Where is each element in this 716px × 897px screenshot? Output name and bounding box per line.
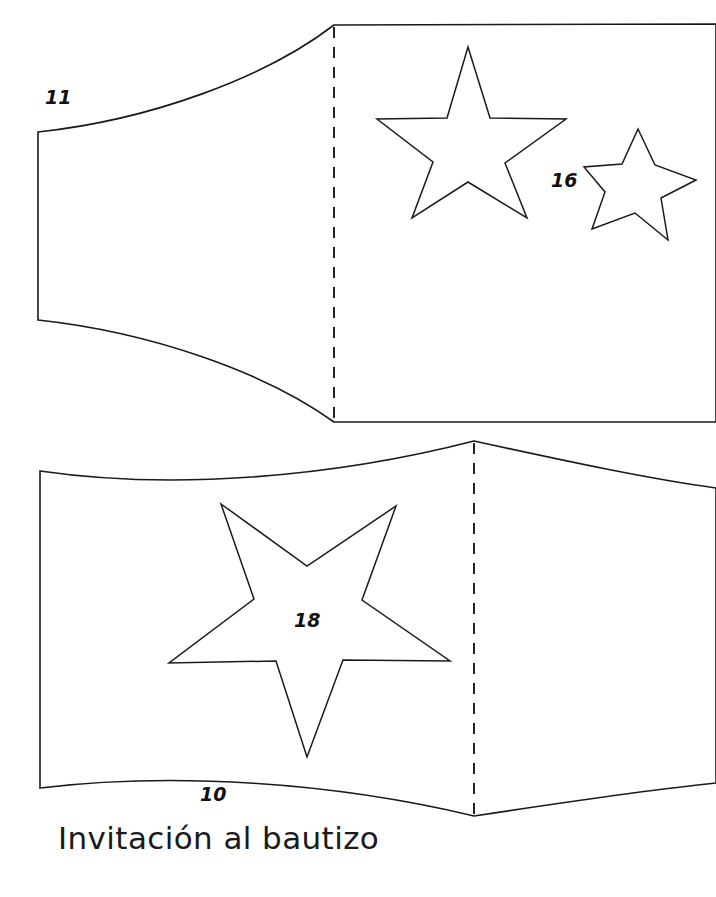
label-11: 11 [45, 86, 71, 108]
caption-invitacion-al-bautizo: Invitación al bautizo [58, 820, 379, 856]
top-piece: 11 16 [38, 24, 716, 422]
label-10: 10 [200, 783, 226, 805]
pattern-drawing: 11 16 18 10 Invitación al bautizo [0, 0, 716, 897]
bottom-piece: 18 10 [40, 441, 716, 816]
template-sheet: 11 16 18 10 Invitación al bautizo [0, 0, 716, 897]
top-piece-outline [38, 24, 716, 422]
label-16: 16 [551, 169, 577, 191]
label-18: 18 [294, 609, 320, 631]
